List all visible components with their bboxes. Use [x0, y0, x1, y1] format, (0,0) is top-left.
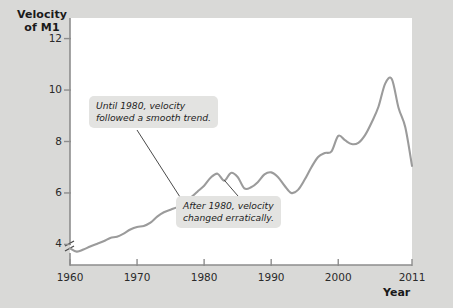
annotation-2-line2: changed erratically.	[183, 212, 274, 224]
chart-svg	[0, 0, 453, 308]
tick-marks	[64, 39, 412, 266]
annotation-1-line1: Until 1980, velocity	[96, 100, 211, 112]
annotation-1-line2: followed a smooth trend.	[96, 112, 211, 124]
chart-figure: Velocity of M1 Year 4 6 8 10 12 1960 197…	[0, 0, 453, 308]
annotation-callout-until-1980: Until 1980, velocity followed a smooth t…	[89, 96, 218, 128]
annotation-leader-lines	[137, 130, 238, 203]
annotation-2-line1: After 1980, velocity	[183, 200, 274, 212]
annotation-callout-after-1980: After 1980, velocity changed erratically…	[176, 196, 281, 228]
